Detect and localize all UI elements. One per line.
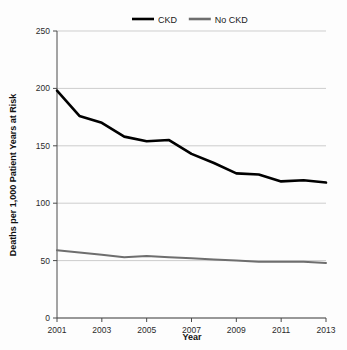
y-tick-label: 100 <box>36 198 50 208</box>
y-tick-label: 50 <box>41 256 51 266</box>
x-tick-label: 2011 <box>272 325 291 335</box>
y-tick-label: 200 <box>36 83 50 93</box>
x-axis-title: Year <box>182 332 202 342</box>
x-tick-label: 2003 <box>92 325 111 335</box>
y-tick-label: 150 <box>36 141 50 151</box>
chart-background <box>0 0 347 350</box>
y-tick-label: 0 <box>45 313 50 323</box>
y-axis-title: Deaths per 1,000 Patient Years at Risk <box>8 93 18 256</box>
x-tick-label: 2005 <box>137 325 156 335</box>
chart-canvas: 050100150200250 200120032005200720092011… <box>0 0 347 350</box>
x-tick-label: 2001 <box>48 325 67 335</box>
legend-label: No CKD <box>215 15 249 25</box>
x-tick-label: 2009 <box>227 325 246 335</box>
legend-label: CKD <box>158 15 178 25</box>
y-tick-label: 250 <box>36 26 50 36</box>
line-chart: 050100150200250 200120032005200720092011… <box>0 0 347 350</box>
x-tick-label: 2013 <box>317 325 336 335</box>
